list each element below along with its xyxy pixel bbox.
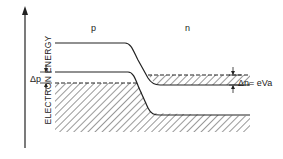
delta-p-label: Δp xyxy=(30,75,41,84)
p-region-label: p xyxy=(91,24,96,33)
n-region-label: n xyxy=(185,24,190,33)
energy-axis-label: ELECTRON ENERGY xyxy=(43,35,53,124)
delta-n-symbol: Δn xyxy=(238,78,249,88)
delta-n-label: Δn= eVa xyxy=(238,79,272,88)
n-conduction-hatch xyxy=(148,75,250,85)
energy-axis xyxy=(22,6,28,148)
delta-n-equation: = eVa xyxy=(249,78,272,88)
p-valence-hatch xyxy=(55,83,250,132)
